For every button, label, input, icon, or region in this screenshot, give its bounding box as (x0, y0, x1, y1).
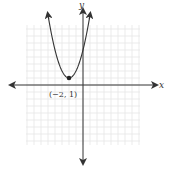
coordinate-graph: x y (−2, 1) (0, 0, 170, 172)
vertex-point (67, 76, 72, 81)
parabola-right-arrow (89, 13, 90, 19)
parabola-left-arrow (48, 13, 49, 19)
vertex-label: (−2, 1) (49, 90, 77, 99)
y-axis-label: y (78, 0, 85, 10)
x-axis-label: x (159, 80, 164, 90)
